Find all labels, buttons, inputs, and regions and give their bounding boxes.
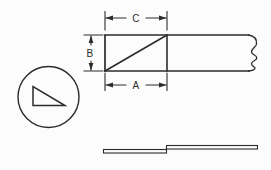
technical-diagram: C B A [0, 0, 271, 170]
dim-b-arrow-top [89, 36, 94, 44]
dim-b-arrow-bottom [89, 63, 94, 71]
dim-a-arrow-left [106, 83, 114, 88]
diagram-canvas: C B A [0, 0, 271, 170]
stepped-strip-view [104, 146, 258, 154]
end-view [18, 67, 79, 128]
dimension-c-label: C [132, 13, 140, 24]
circle-outline [18, 67, 79, 128]
triangle-shape [33, 87, 65, 106]
dim-a-arrow-right [159, 83, 167, 88]
dim-c-arrow-left [106, 16, 114, 21]
side-view-bar [105, 35, 257, 71]
strip-lower-left [104, 150, 167, 154]
dimension-a: A [105, 73, 167, 91]
dim-c-arrow-right [159, 16, 167, 21]
diagonal-line [105, 35, 167, 71]
dimension-a-label: A [132, 80, 139, 91]
strip-upper-right [167, 146, 258, 150]
dimension-c: C [105, 12, 167, 31]
dimension-b-label: B [86, 48, 93, 59]
dimension-b: B [84, 35, 103, 71]
break-line [249, 35, 257, 71]
